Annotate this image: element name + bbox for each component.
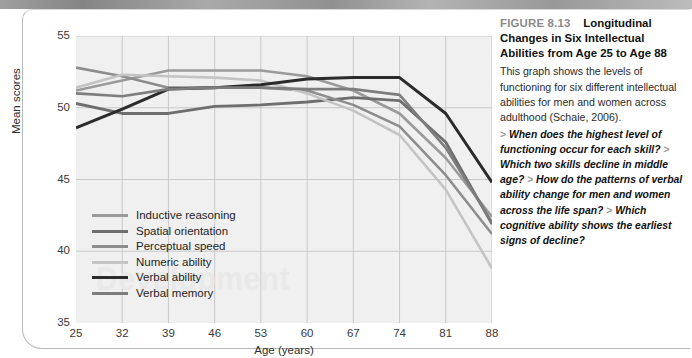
legend-item: Spatial orientation	[92, 224, 236, 240]
x-axis-tick-label: 74	[383, 328, 417, 340]
legend-item-label: Verbal ability	[136, 272, 201, 284]
legend-item-label: Perceptual speed	[136, 241, 226, 253]
caption-question-list: > When does the highest level of functio…	[500, 127, 684, 249]
legend-color-swatch	[92, 214, 128, 217]
y-axis-tick-label: 35	[42, 317, 70, 329]
y-axis-tick-label: 40	[42, 245, 70, 257]
legend-item: Verbal memory	[92, 286, 236, 302]
y-axis-tick-label: 50	[42, 102, 70, 114]
legend-item-label: Numeric ability	[136, 257, 211, 269]
x-axis-tick-label: 60	[290, 328, 324, 340]
figure-root: Mean scores 3540455055 25323946536067748…	[0, 0, 692, 358]
figure-caption: FIGURE 8.13 Longitudinal Changes in Six …	[500, 16, 684, 248]
caption-body-text: This graph shows the levels of functioni…	[500, 64, 684, 124]
question-marker-icon: >	[663, 144, 669, 155]
legend-color-swatch	[92, 276, 128, 279]
y-axis-tick-label: 45	[42, 174, 70, 186]
x-axis-tick-label: 81	[429, 328, 463, 340]
x-axis-tick-label: 39	[151, 328, 185, 340]
x-axis-tick-label: 67	[336, 328, 370, 340]
series-line	[76, 70, 492, 216]
chart-container: Mean scores 3540455055 25323946536067748…	[14, 14, 492, 344]
x-axis-tick-label: 53	[244, 328, 278, 340]
caption-heading: FIGURE 8.13 Longitudinal Changes in Six …	[500, 16, 684, 61]
y-axis-tick-label: 55	[42, 30, 70, 42]
legend-item: Numeric ability	[92, 255, 236, 271]
legend-color-swatch	[92, 261, 128, 264]
x-axis-tick-label: 88	[475, 328, 509, 340]
x-axis-tick-label: 32	[105, 328, 139, 340]
legend-item: Verbal ability	[92, 270, 236, 286]
caption-question-text: When does the highest level of functioni…	[500, 129, 663, 155]
y-axis-title: Mean scores	[10, 68, 22, 134]
legend-item: Inductive reasoning	[92, 208, 236, 224]
x-axis-tick-label: 46	[198, 328, 232, 340]
legend-item-label: Verbal memory	[136, 288, 213, 300]
legend-color-swatch	[92, 230, 128, 233]
legend-item-label: Spatial orientation	[136, 226, 228, 238]
question-marker-icon: >	[606, 205, 615, 216]
legend-item-label: Inductive reasoning	[136, 210, 236, 222]
question-marker-icon: >	[527, 174, 536, 185]
question-marker-icon: >	[500, 129, 509, 140]
legend-item: Perceptual speed	[92, 239, 236, 255]
scan-edge-strip	[0, 0, 692, 9]
chart-legend: Inductive reasoningSpatial orientationPe…	[92, 208, 236, 301]
legend-color-swatch	[92, 245, 128, 248]
x-axis-title: Age (years)	[76, 344, 492, 356]
series-line	[76, 98, 492, 224]
figure-number: FIGURE 8.13	[500, 17, 571, 29]
legend-color-swatch	[92, 292, 128, 295]
x-axis-tick-label: 25	[59, 328, 93, 340]
